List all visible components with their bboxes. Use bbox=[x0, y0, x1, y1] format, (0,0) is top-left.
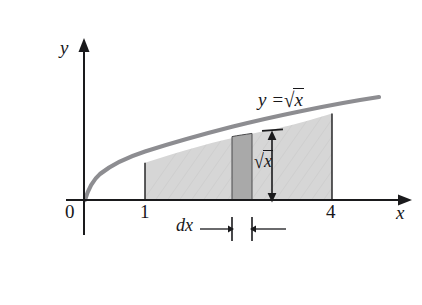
x-tick-label-1: 1 bbox=[140, 202, 150, 221]
curve-equation-lhs: y = bbox=[258, 89, 284, 110]
figure-container: y x 0 1 4 y =√x √x dx bbox=[0, 0, 422, 305]
radical-sign-icon: √ bbox=[254, 151, 264, 171]
slice-height-label: √x bbox=[254, 152, 273, 170]
dx-measure-arrows bbox=[200, 217, 286, 241]
dx-label: dx bbox=[176, 216, 193, 234]
y-axis-arrowhead bbox=[79, 38, 90, 52]
curve-equation-radicand: x bbox=[293, 88, 303, 110]
origin-label: 0 bbox=[65, 202, 75, 221]
height-radical: √x bbox=[254, 152, 273, 170]
curve-equation-radical: √x bbox=[284, 90, 304, 109]
curve-equation-label: y =√x bbox=[258, 90, 304, 109]
y-axis-label: y bbox=[60, 38, 68, 57]
x-axis-label: x bbox=[396, 203, 404, 222]
dx-slice-rectangle bbox=[232, 133, 252, 200]
x-tick-label-4: 4 bbox=[326, 202, 336, 221]
radical-sign-icon: √ bbox=[284, 89, 294, 110]
height-radicand: x bbox=[263, 150, 273, 171]
